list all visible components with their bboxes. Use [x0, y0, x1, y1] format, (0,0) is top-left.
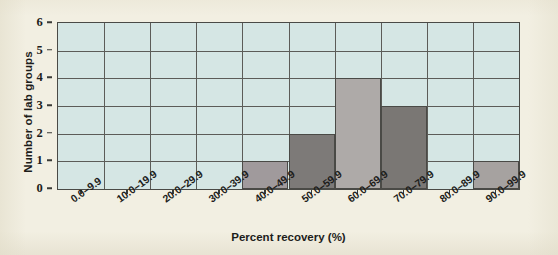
histogram-figure: Number of lab groups 0123456 0.0–9.910.0…	[0, 0, 558, 255]
y-tick-label: 0	[37, 181, 43, 196]
y-tick-label: 3	[37, 98, 43, 113]
y-tick-label: 2	[37, 125, 43, 140]
y-tick-mark	[47, 187, 52, 189]
y-tick-mark	[47, 132, 52, 134]
y-tick-mark	[47, 77, 52, 79]
gridline-vertical	[150, 23, 151, 189]
x-axis-title: Percent recovery (%)	[57, 231, 520, 243]
plot-area	[57, 22, 520, 190]
gridline-vertical	[196, 23, 197, 189]
y-tick-label: 1	[37, 153, 43, 168]
gridline-vertical	[104, 23, 105, 189]
y-tick-label: 5	[37, 42, 43, 57]
y-tick-mark	[47, 104, 52, 106]
gridline-vertical	[427, 23, 428, 189]
y-tick-mark	[47, 49, 52, 51]
y-tick-mark	[47, 21, 52, 23]
y-tick-label: 6	[37, 15, 43, 30]
y-axis: 0123456	[0, 22, 52, 190]
y-tick-label: 4	[37, 70, 43, 85]
y-tick-mark	[47, 160, 52, 162]
x-axis: 0.0–9.910.0–19.920.0–29.930.0–39.940.0–4…	[57, 190, 520, 234]
